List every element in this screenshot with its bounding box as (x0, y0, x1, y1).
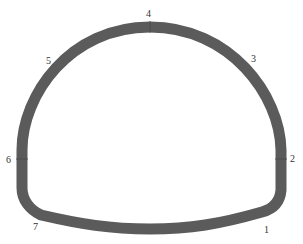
point-label-6: 6 (6, 154, 11, 165)
tunnel-cross-section-diagram: 1 2 3 4 5 6 7 (0, 0, 303, 244)
tunnel-lining (22, 27, 281, 229)
point-label-4: 4 (146, 8, 151, 19)
point-label-7: 7 (33, 221, 38, 232)
point-label-3: 3 (251, 53, 256, 64)
point-label-1: 1 (264, 224, 269, 235)
point-label-5: 5 (46, 55, 51, 66)
point-labels: 1 2 3 4 5 6 7 (6, 8, 295, 235)
point-label-2: 2 (290, 153, 295, 164)
